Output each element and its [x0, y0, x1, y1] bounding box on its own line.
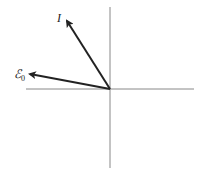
vector-e0 — [30, 74, 110, 89]
label-e0: ℰ0 — [14, 67, 25, 83]
vector-i — [67, 21, 110, 89]
label-i: I — [56, 11, 62, 25]
phasor-diagram: I ℰ0 — [0, 0, 206, 171]
label-e0-sub: 0 — [21, 74, 25, 83]
